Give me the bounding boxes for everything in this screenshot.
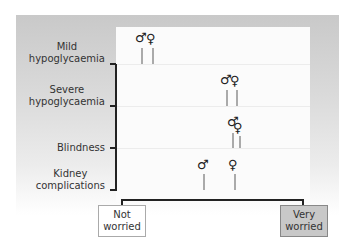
female-symbol-icon: ♀ [230, 74, 240, 87]
y-tick [110, 189, 116, 191]
row-separator [116, 106, 310, 107]
row-label-mild-hypoglycaemia: Mild hypoglycaemia [29, 41, 105, 65]
plot-area [116, 27, 310, 202]
y-axis-line [115, 64, 117, 191]
male-marker-mild [141, 48, 143, 64]
male-marker-blindness [232, 133, 234, 148]
row-label-line: Kidney [36, 168, 105, 180]
scale-label-not-worried: Not worried [98, 205, 146, 237]
female-marker-kidney [234, 174, 236, 190]
row-separator [116, 64, 310, 65]
end-label-line: worried [99, 221, 145, 233]
row-label-line: Mild [29, 41, 105, 53]
row-separator [116, 148, 310, 149]
row-label-severe-hypoglycaemia: Severe hypoglycaemia [29, 84, 105, 108]
scale-label-very-worried: Very worried [280, 205, 328, 237]
male-symbol-icon: ♂ [135, 31, 147, 44]
female-symbol-icon: ♀ [146, 32, 156, 45]
male-marker-severe [226, 90, 228, 106]
female-symbol-icon: ♀ [228, 158, 238, 171]
female-marker-mild [152, 48, 154, 64]
female-marker-blindness [239, 136, 241, 148]
y-tick [110, 147, 116, 149]
row-label-kidney-complications: Kidney complications [36, 168, 105, 192]
row-label-blindness: Blindness [57, 142, 105, 154]
male-marker-kidney [203, 174, 205, 190]
y-tick [110, 63, 116, 65]
x-scale-line [121, 199, 303, 201]
end-label-line: worried [281, 221, 327, 233]
end-label-line: Very [281, 209, 327, 221]
y-tick [110, 105, 116, 107]
end-label-line: Not [99, 209, 145, 221]
row-label-line: Severe [29, 84, 105, 96]
female-marker-severe [236, 90, 238, 106]
female-symbol-icon: ♀ [233, 121, 243, 134]
row-label-line: hypoglycaemia [29, 96, 105, 108]
row-label-line: hypoglycaemia [29, 53, 105, 65]
row-label-line: complications [36, 180, 105, 192]
male-symbol-icon: ♂ [197, 158, 209, 171]
row-label-line: Blindness [57, 142, 105, 154]
